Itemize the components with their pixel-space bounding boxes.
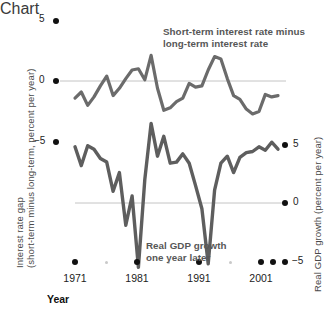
x-tick-dot-1981 xyxy=(134,259,140,265)
annotation-line1: Short-term interest rate minus xyxy=(163,26,305,38)
left-tick-dot-minus5 xyxy=(53,139,59,145)
series-line-interest-rate-gap xyxy=(75,55,278,114)
x-axis-label-2001: 2001 xyxy=(241,272,281,284)
x-axis-label-1981: 1981 xyxy=(117,272,157,284)
x-tick-dot-extra xyxy=(270,259,276,265)
left-tick-label-minus5: −5 xyxy=(34,135,45,146)
left-tick-label-5: 5 xyxy=(39,13,45,24)
right-tick-dot-0 xyxy=(282,200,288,206)
left-tick-label-0: 0 xyxy=(39,74,45,85)
x-tick-dot-1971 xyxy=(72,259,78,265)
x-minor-tick-dot-1976 xyxy=(105,261,108,264)
left-tick-dot-5 xyxy=(53,18,59,24)
right-tick-label-0: 0 xyxy=(293,196,299,207)
annotation-line2: long-term interest rate xyxy=(163,38,305,50)
annotation-line1: Real GDP growth xyxy=(146,240,227,252)
annotation-line2: one year later xyxy=(146,252,227,264)
right-tick-dot-5 xyxy=(282,142,288,148)
right-tick-label-minus5: −5 xyxy=(292,255,303,266)
right-tick-label-5: 5 xyxy=(293,138,299,149)
gdp-growth-annotation: Real GDP growth one year later xyxy=(146,240,227,263)
left-tick-dot-0 xyxy=(53,78,59,84)
interest-rate-gap-annotation: Short-term interest rate minus long-term… xyxy=(163,26,305,49)
right-axis-title: Real GDP growth (percent per year) xyxy=(312,137,323,292)
x-axis-title: Year xyxy=(47,293,69,305)
left-axis-title-line2: (short-term minus long-term, percent per… xyxy=(25,69,36,268)
x-axis-label-1991: 1991 xyxy=(179,272,219,284)
x-axis-label-1971: 1971 xyxy=(55,272,95,284)
left-axis-title-line1: Interest rate gap xyxy=(14,197,25,268)
x-minor-tick-dot-1996 xyxy=(229,261,232,264)
right-tick-dot-minus5 xyxy=(282,259,288,265)
x-tick-dot-2001 xyxy=(258,259,264,265)
